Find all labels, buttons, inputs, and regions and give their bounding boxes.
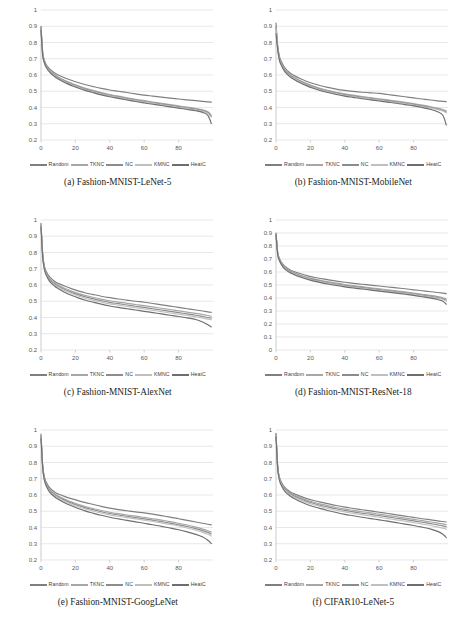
legend-entry-tknc[interactable]: TKNC	[70, 372, 106, 377]
legend-entry-kmnc[interactable]: KMNC	[134, 162, 171, 167]
legend-entry-kmnc[interactable]: KMNC	[370, 162, 407, 167]
series-line-tknc	[41, 28, 211, 115]
legend-swatch-heatc	[407, 164, 424, 166]
y-tick-label: 1	[269, 7, 273, 13]
x-tick-label: 20	[72, 145, 79, 151]
series-line-kmnc	[41, 437, 211, 536]
x-tick-label: 80	[411, 565, 418, 571]
line-chart-a: 0.20.30.40.50.60.70.80.91020406080	[15, 4, 221, 156]
caption-c: (c) Fashion-MNIST-AlexNet	[64, 387, 172, 397]
legend-entry-heatc[interactable]: HeatC	[171, 582, 207, 587]
x-tick-label: 40	[106, 565, 113, 571]
legend-entry-random[interactable]: Random	[29, 162, 70, 167]
legend-label-kmnc: KMNC	[390, 372, 406, 377]
x-tick-label: 80	[411, 355, 418, 361]
legend-entry-nc[interactable]: NC	[105, 372, 134, 377]
legend-entry-random[interactable]: Random	[264, 372, 305, 377]
legend-entry-random[interactable]: Random	[29, 372, 70, 377]
y-tick-label: 0.9	[264, 23, 273, 29]
legend-entry-tknc[interactable]: TKNC	[70, 162, 106, 167]
series-line-kmnc	[276, 28, 446, 113]
legend-entry-kmnc[interactable]: KMNC	[134, 372, 171, 377]
legend-label-heatc: HeatC	[426, 582, 441, 587]
legend-c: RandomTKNCNCKMNCHeatC	[18, 367, 218, 383]
series-line-heatc	[41, 30, 211, 123]
y-tick-label: 0.7	[28, 56, 37, 62]
x-tick-label: 80	[411, 145, 418, 151]
series-line-random	[276, 233, 446, 294]
legend-entry-random[interactable]: Random	[264, 582, 305, 587]
legend-entry-tknc[interactable]: TKNC	[305, 582, 341, 587]
legend-label-nc: NC	[125, 582, 133, 587]
legend-entry-heatc[interactable]: HeatC	[406, 582, 442, 587]
x-tick-label: 60	[141, 355, 148, 361]
x-tick-label: 0	[39, 565, 43, 571]
legend-swatch-nc	[342, 164, 359, 166]
legend-entry-tknc[interactable]: TKNC	[70, 582, 106, 587]
legend-entry-heatc[interactable]: HeatC	[406, 372, 442, 377]
legend-entry-tknc[interactable]: TKNC	[305, 372, 341, 377]
series-line-nc	[41, 29, 211, 116]
legend-swatch-random	[30, 164, 47, 166]
legend-label-random: Random	[49, 162, 69, 167]
legend-entry-random[interactable]: Random	[29, 582, 70, 587]
legend-entry-kmnc[interactable]: KMNC	[370, 582, 407, 587]
legend-label-nc: NC	[361, 162, 369, 167]
x-tick-label: 0	[275, 565, 279, 571]
y-tick-label: 0.7	[264, 56, 273, 62]
legend-swatch-random	[30, 584, 47, 586]
x-tick-label: 20	[307, 565, 314, 571]
legend-entry-nc[interactable]: NC	[341, 372, 370, 377]
y-tick-label: 0.9	[28, 443, 37, 449]
legend-entry-random[interactable]: Random	[264, 162, 305, 167]
legend-swatch-nc	[342, 374, 359, 376]
x-tick-label: 60	[376, 355, 383, 361]
legend-entry-nc[interactable]: NC	[105, 162, 134, 167]
legend-entry-kmnc[interactable]: KMNC	[370, 372, 407, 377]
legend-entry-kmnc[interactable]: KMNC	[134, 582, 171, 587]
plot-area-e: 0.20.30.40.50.60.70.80.91020406080	[15, 424, 221, 576]
legend-entry-heatc[interactable]: HeatC	[406, 162, 442, 167]
y-tick-label: 0.7	[28, 266, 37, 272]
legend-entry-heatc[interactable]: HeatC	[171, 162, 207, 167]
y-tick-label: 0.6	[28, 282, 37, 288]
y-tick-label: 0.6	[264, 492, 273, 498]
y-tick-label: 0.9	[28, 233, 37, 239]
legend-swatch-random	[265, 374, 282, 376]
legend-label-nc: NC	[361, 582, 369, 587]
chart-panel-d: 00.10.20.30.40.50.60.70.80.91020406080 R…	[236, 210, 471, 420]
legend-label-kmnc: KMNC	[154, 372, 170, 377]
y-tick-label: 0.4	[28, 105, 37, 111]
y-tick-label: 0	[269, 347, 273, 353]
legend-entry-nc[interactable]: NC	[105, 582, 134, 587]
legend-entry-nc[interactable]: NC	[341, 162, 370, 167]
figure-grid: 0.20.30.40.50.60.70.80.91020406080 Rando…	[0, 0, 471, 630]
legend-entry-heatc[interactable]: HeatC	[171, 372, 207, 377]
y-tick-label: 0.7	[264, 256, 273, 262]
y-tick-label: 0.4	[28, 315, 37, 321]
y-tick-label: 1	[33, 427, 37, 433]
y-tick-label: 0.9	[264, 230, 273, 236]
y-tick-label: 0.1	[264, 334, 273, 340]
y-tick-label: 0.2	[264, 321, 273, 327]
y-tick-label: 0.4	[28, 525, 37, 531]
x-tick-label: 20	[72, 355, 79, 361]
legend-label-tknc: TKNC	[325, 162, 340, 167]
x-tick-label: 80	[175, 145, 182, 151]
x-tick-label: 60	[376, 145, 383, 151]
x-tick-label: 20	[72, 565, 79, 571]
legend-swatch-tknc	[71, 584, 88, 586]
legend-entry-nc[interactable]: NC	[341, 582, 370, 587]
chart-panel-b: 0.20.30.40.50.60.70.80.91020406080 Rando…	[236, 0, 471, 210]
series-line-kmnc	[276, 436, 446, 529]
legend-label-heatc: HeatC	[191, 582, 206, 587]
legend-label-heatc: HeatC	[426, 372, 441, 377]
y-tick-label: 0.5	[28, 88, 37, 94]
x-tick-label: 80	[175, 355, 182, 361]
legend-entry-tknc[interactable]: TKNC	[305, 162, 341, 167]
x-tick-label: 60	[141, 145, 148, 151]
caption-d: (d) Fashion-MNIST-ResNet-18	[295, 387, 412, 397]
y-tick-label: 0.8	[264, 460, 273, 466]
y-tick-label: 0.8	[28, 250, 37, 256]
plot-area-b: 0.20.30.40.50.60.70.80.91020406080	[250, 4, 456, 156]
